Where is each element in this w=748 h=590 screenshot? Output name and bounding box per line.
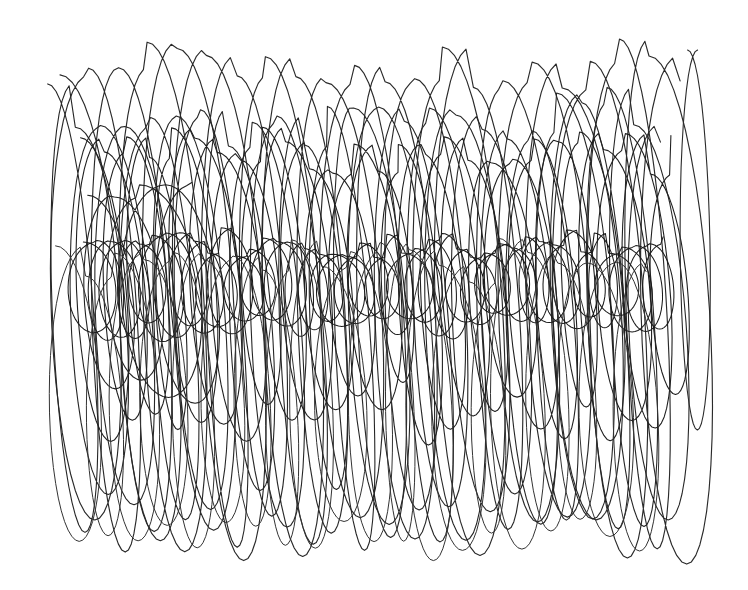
scribble-drawing — [0, 0, 748, 590]
scribble-artwork — [0, 0, 748, 590]
